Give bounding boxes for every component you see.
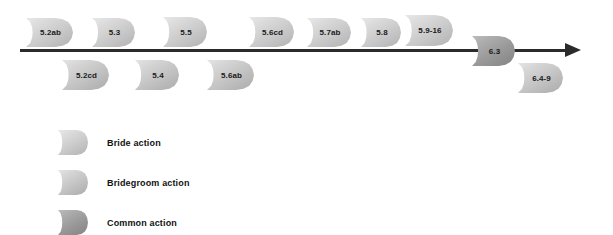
timeline-node-label: 6.4-9 xyxy=(532,74,551,83)
legend-item-bridegroom: Bridegroom action xyxy=(58,170,190,195)
legend-label-bridegroom: Bridegroom action xyxy=(107,178,190,188)
timeline-node-below[interactable]: 6.4-9 xyxy=(518,63,563,93)
timeline-node-label: 5.3 xyxy=(109,28,120,37)
legend-swatch-bridegroom-icon xyxy=(58,170,88,195)
timeline-node-above[interactable]: 5.7ab xyxy=(307,18,351,47)
timeline-node-above[interactable]: 5.5 xyxy=(163,17,207,47)
timeline-node-below[interactable]: 5.6ab xyxy=(207,60,254,90)
timeline-node-below[interactable]: 5.4 xyxy=(135,60,179,90)
timeline-node-label: 5.6ab xyxy=(221,71,242,80)
legend-item-bride: Bride action xyxy=(58,130,161,155)
legend-label-common: Common action xyxy=(107,218,177,228)
legend-swatch-common-icon xyxy=(58,210,88,235)
timeline-node-label: 5.5 xyxy=(180,28,191,37)
timeline-node-label: 5.2cd xyxy=(76,71,97,80)
timeline-node-on-axis[interactable]: 6.3 xyxy=(472,36,515,66)
legend-swatch-bride-icon xyxy=(58,130,88,155)
timeline-node-label: 5.7ab xyxy=(320,28,341,37)
timeline-node-label: 5.8 xyxy=(376,28,387,37)
timeline-node-label: 5.2ab xyxy=(40,28,61,37)
timeline-diagram: 5.2ab 5.3 5.5 5.6cd 5.7ab 5.8 5.9-16 5.2… xyxy=(0,0,613,235)
timeline-node-above[interactable]: 5.6cd xyxy=(249,17,294,47)
timeline-area: 5.2ab 5.3 5.5 5.6cd 5.7ab 5.8 5.9-16 5.2… xyxy=(0,0,613,115)
timeline-node-below[interactable]: 5.2cd xyxy=(62,60,109,90)
legend: Bride action Bridegroom action Common ac… xyxy=(0,118,613,235)
timeline-node-above[interactable]: 5.8 xyxy=(361,18,401,47)
legend-label-bride: Bride action xyxy=(107,138,161,148)
timeline-node-label: 5.9-16 xyxy=(418,26,441,35)
timeline-arrow-icon xyxy=(565,43,581,57)
timeline-node-above[interactable]: 5.2ab xyxy=(26,18,73,47)
timeline-node-label: 5.4 xyxy=(152,71,163,80)
legend-item-common: Common action xyxy=(58,210,177,235)
timeline-node-above[interactable]: 5.3 xyxy=(92,18,135,47)
timeline-node-label: 5.6cd xyxy=(262,28,283,37)
timeline-node-label: 6.3 xyxy=(489,47,500,56)
timeline-node-above[interactable]: 5.9-16 xyxy=(405,15,453,46)
